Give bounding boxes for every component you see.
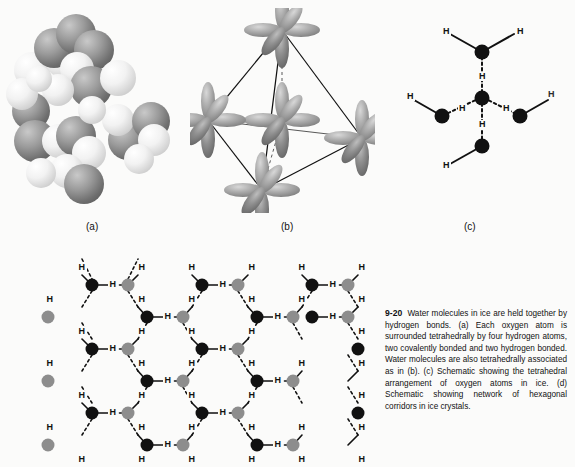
hydrogen-label: H [218, 344, 228, 353]
panel-a-space-filling-model [12, 8, 187, 213]
hydrogen-label: H [187, 263, 197, 272]
hydrogen-label: H [187, 455, 197, 464]
hydrogen-sphere [26, 158, 56, 188]
hydrogen-label: H [137, 359, 147, 368]
hydrogen-label: H [357, 295, 367, 304]
panel-label-b: (b) [281, 221, 293, 232]
oxygen-atom-gray [342, 279, 355, 292]
figure-caption: 9-20 Water molecules in ice are held tog… [385, 308, 567, 412]
oxygen-atom-gray [287, 439, 300, 452]
hydrogen-sphere [78, 96, 106, 124]
hydrogen-label: H [137, 423, 147, 432]
hydrogen-sphere [124, 144, 154, 174]
central-oxygen-atom [475, 91, 490, 106]
figure-caption-text: Water molecules in ice are held together… [385, 309, 567, 411]
oxygen-atom-dark [251, 439, 264, 452]
oxygen-atom-dark [251, 375, 264, 388]
hydrogen-label: H [442, 161, 451, 170]
tetrahedron-diagram [190, 8, 375, 213]
oxygen-atom-dark [306, 279, 319, 292]
oxygen-atom-dark [196, 407, 209, 420]
hydrogen-label: H [247, 455, 257, 464]
hydrogen-label: H [548, 90, 555, 99]
hydrogen-label: H [45, 359, 55, 368]
oxygen-atom-gray [122, 407, 135, 420]
oxygen-atom-dark [352, 343, 365, 356]
panel-label-c: (c) [464, 221, 476, 232]
oxygen-atom-gray [177, 311, 190, 324]
vertex-orbital-cluster [324, 100, 375, 176]
oxygen-atom-gray [232, 279, 245, 292]
oxygen-atom-gray [42, 375, 55, 388]
figure-number: 9-20 [385, 308, 402, 318]
hydrogen-label: H [137, 455, 147, 464]
oxygen-atom-dark [86, 343, 99, 356]
oxygen-atom-dark [141, 375, 154, 388]
central-orbital-cluster [244, 82, 320, 158]
hydrogen-label: H [478, 72, 487, 81]
oxygen-atom-dark [141, 311, 154, 324]
hydrogen-label: H [406, 92, 415, 101]
hydrogen-label: H [163, 376, 173, 385]
hydrogen-label: H [137, 327, 147, 336]
hydrogen-label: H [77, 391, 87, 400]
panel-d-hexagonal-network: HHHHHHHHHHHHHHHHHHHHHHHHHHHHHHHHHHHHHHHH… [40, 250, 385, 467]
oxygen-atom-dark [306, 311, 319, 324]
hydrogen-label: H [137, 391, 147, 400]
hydrogen-label: H [328, 280, 338, 289]
hydrogen-label: H [247, 423, 257, 432]
oxygen-atom-gray [122, 343, 135, 356]
hydrogen-label: H [478, 120, 487, 129]
oxygen-atom-gray [287, 375, 300, 388]
hydrogen-label: H [108, 408, 118, 417]
oxygen-atom-dark [251, 311, 264, 324]
oxygen-atoms [42, 279, 365, 452]
hydrogen-label: H [357, 327, 367, 336]
oxygen-atom-gray [122, 279, 135, 292]
hydrogen-label: H [273, 440, 283, 449]
hydrogen-sphere [26, 66, 52, 92]
hydrogen-label: H [502, 104, 511, 113]
hydrogen-label: H [137, 295, 147, 304]
hydrogen-label: H [137, 263, 147, 272]
hydrogen-label: H [328, 312, 338, 321]
hydrogen-label: H [45, 423, 55, 432]
hydrogen-label: H [163, 312, 173, 321]
vertex-orbital-cluster [244, 8, 320, 68]
hydrogen-label: H [297, 263, 307, 272]
hydrogen-label: H [45, 295, 55, 304]
peripheral-oxygen-atom [475, 45, 490, 60]
hydrogen-label: H [247, 391, 257, 400]
hydrogen-label: H [163, 440, 173, 449]
hydrogen-label: H [108, 344, 118, 353]
oxygen-atom-gray [232, 343, 245, 356]
oxygen-atom-gray [342, 311, 355, 324]
hydrogen-label: H [187, 359, 197, 368]
oxygen-atom-dark [141, 439, 154, 452]
hydrogen-label: H [187, 295, 197, 304]
oxygen-atom-dark [86, 279, 99, 292]
hydrogen-label: H [247, 263, 257, 272]
hydrogen-label: H [297, 295, 307, 304]
hydrogen-label: H [77, 327, 87, 336]
hydrogen-label: H [187, 423, 197, 432]
oxygen-atom-dark [196, 279, 209, 292]
oxygen-atom-gray [232, 407, 245, 420]
oxygen-atom-dark [86, 407, 99, 420]
hydrogen-label: H [77, 455, 87, 464]
hydrogen-label: H [442, 27, 451, 36]
hydrogen-label: H [357, 423, 367, 432]
vertex-orbital-cluster [190, 82, 246, 158]
oxygen-atom-gray [177, 375, 190, 388]
oxygen-sphere [64, 164, 104, 204]
hydrogen-label: H [247, 359, 257, 368]
hydrogen-label: H [357, 359, 367, 368]
hydrogen-label: H [247, 327, 257, 336]
hydrogen-label: H [108, 280, 118, 289]
hydrogen-label: H [357, 391, 367, 400]
hydrogen-label: H [357, 263, 367, 272]
hydrogen-label: H [77, 263, 87, 272]
hydrogen-label: H [297, 359, 307, 368]
oxygen-atom-gray [42, 439, 55, 452]
hydrogen-label: H [297, 423, 307, 432]
